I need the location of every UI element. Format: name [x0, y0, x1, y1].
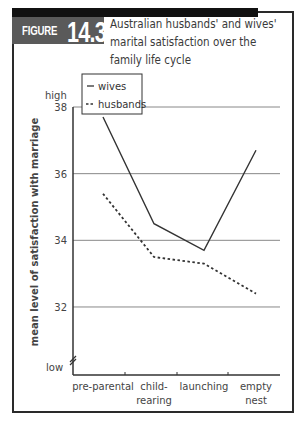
series-line-wives — [103, 117, 256, 250]
y-tick-label: 34 — [54, 235, 67, 246]
y-label-high: high — [45, 90, 67, 101]
y-tick-label: 32 — [54, 302, 67, 313]
x-tick-label: rearing — [136, 395, 172, 406]
y-tick-label: 38 — [54, 102, 67, 113]
x-tick-label: launching — [180, 381, 229, 392]
x-tick-label: child- — [140, 381, 168, 392]
legend-wives-label: wives — [98, 81, 126, 92]
y-tick-label: 36 — [54, 169, 67, 180]
x-tick-label: empty — [240, 381, 272, 392]
series-line-husbands — [103, 194, 256, 294]
y-axis-title: mean level of satisfaction with marriage — [29, 118, 40, 347]
legend-husbands-label: husbands — [98, 99, 146, 110]
y-label-low: low — [46, 362, 63, 373]
line-chart: 32343638highlowpre-parentalchild-rearing… — [0, 0, 305, 424]
x-tick-label: nest — [245, 395, 267, 406]
x-tick-label: pre-parental — [72, 381, 134, 392]
